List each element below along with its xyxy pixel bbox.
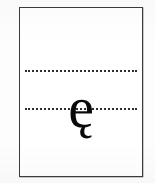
glyph-area: ę: [20, 8, 142, 176]
scan-page: ę: [0, 0, 155, 183]
page-frame: ę: [19, 7, 143, 177]
